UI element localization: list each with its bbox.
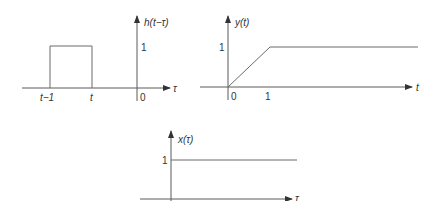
panel-h-shifted: h(t−τ) τ 1 0 t−1 t: [22, 16, 178, 103]
convolution-diagram: h(t−τ) τ 1 0 t−1 t y(t) t 1 0 1 x(τ) τ 1: [0, 0, 440, 201]
t-axis-label: t: [416, 82, 420, 93]
x-axis-label: x(τ): [177, 134, 193, 145]
y-origin-label: 0: [231, 91, 237, 102]
rect-pulse: [50, 46, 92, 88]
h-axis-label: h(t−τ): [144, 17, 169, 28]
h-origin-label: 0: [140, 92, 146, 103]
x-tau-axis-label: τ: [295, 193, 300, 201]
h-tick-t-minus-1: t−1: [40, 92, 54, 103]
ramp-output: [228, 47, 418, 87]
panel-x: x(τ) τ 1: [140, 131, 300, 201]
h-ytick-1: 1: [141, 42, 147, 53]
y-ytick-1: 1: [219, 42, 225, 53]
x-ytick-1: 1: [162, 155, 168, 166]
h-tick-t: t: [90, 92, 94, 103]
tau-axis-label: τ: [173, 83, 178, 94]
panel-y: y(t) t 1 0 1: [200, 16, 420, 102]
y-axis-label: y(t): [234, 17, 249, 28]
y-xtick-1: 1: [265, 91, 271, 102]
